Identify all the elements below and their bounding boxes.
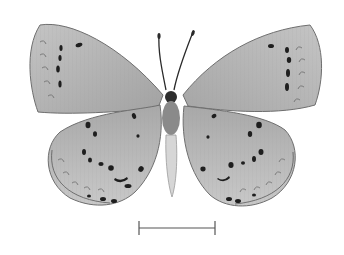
thorax (162, 101, 180, 135)
body (162, 91, 180, 197)
specimen-photo (0, 0, 344, 255)
butterfly-illustration (0, 0, 344, 255)
left-hindwing (48, 105, 161, 205)
antennae (157, 30, 195, 90)
right-hindwing (183, 106, 295, 206)
abdomen (166, 135, 177, 197)
right-forewing (183, 25, 322, 112)
left-forewing (30, 24, 163, 113)
scale-bar (139, 221, 215, 235)
